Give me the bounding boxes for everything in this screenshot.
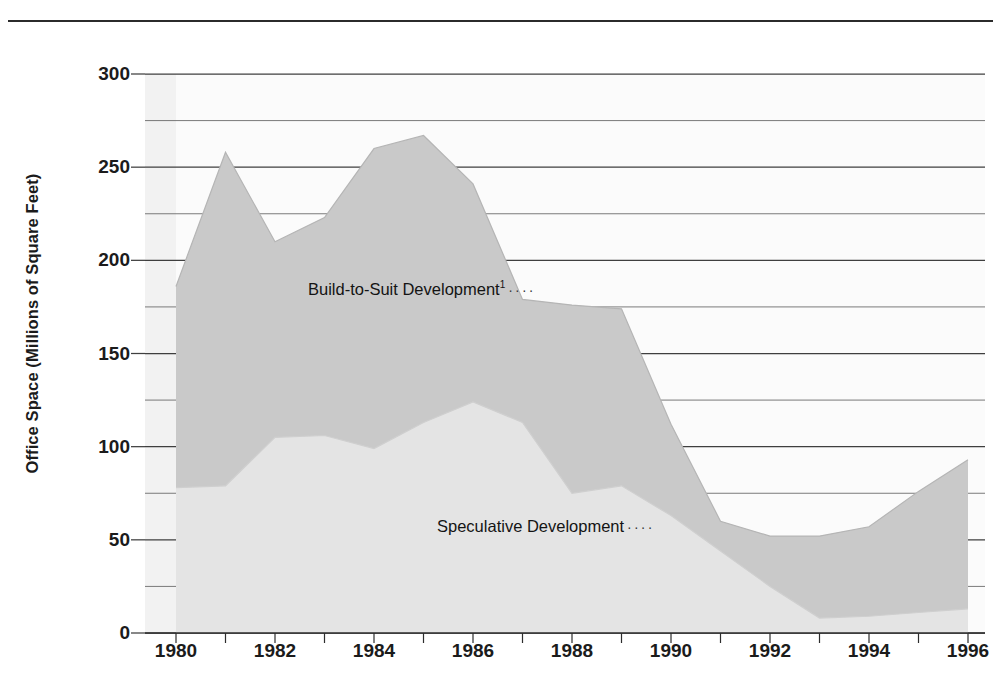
plot-area: 050100150200250300 198019821984198619881… [0, 0, 1001, 675]
series-annotation-build-to-suit-text: Build-to-Suit Development [308, 280, 500, 298]
leader-dots-spec: ···· [627, 519, 654, 535]
x-tick-label: 1988 [551, 641, 593, 660]
series-annotation-build-to-suit: Build-to-Suit Development1···· [308, 280, 536, 297]
x-tick-label: 1994 [848, 641, 890, 660]
x-tick-label: 1980 [155, 641, 197, 660]
series-annotation-speculative: Speculative Development···· [437, 518, 655, 535]
series-annotation-speculative-text: Speculative Development [437, 517, 624, 535]
leader-dots-build: ···· [508, 282, 535, 298]
figure-area-chart: 050100150200250300 198019821984198619881… [0, 0, 1001, 675]
x-tick-labels: 198019821984198619881990199219941996 [0, 0, 1001, 675]
x-tick-label: 1996 [947, 641, 989, 660]
y-axis-title: Office Space (Millions of Square Feet) [23, 64, 42, 584]
x-tick-label: 1992 [749, 641, 791, 660]
x-tick-label: 1982 [254, 641, 296, 660]
footnote-marker: 1 [500, 279, 506, 290]
x-tick-label: 1990 [650, 641, 692, 660]
x-tick-label: 1984 [353, 641, 395, 660]
x-tick-label: 1986 [452, 641, 494, 660]
